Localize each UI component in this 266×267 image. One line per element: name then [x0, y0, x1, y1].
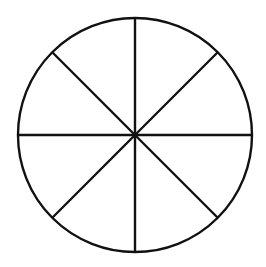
eight-sector-circle-diagram — [0, 0, 266, 267]
sector-dividers — [18, 18, 252, 252]
center-point — [133, 133, 138, 138]
